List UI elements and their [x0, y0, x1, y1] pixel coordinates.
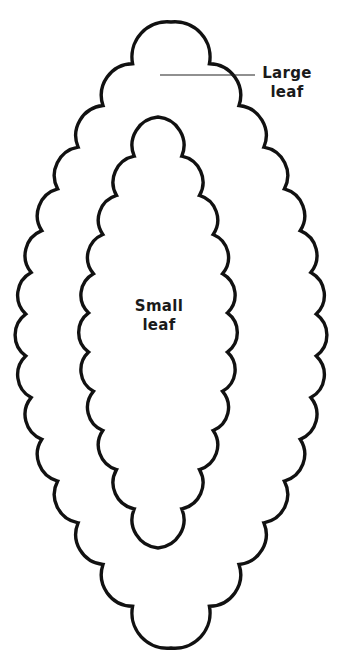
- large-leaf-label-line2: leaf: [258, 83, 316, 102]
- large-leaf-label-line1: Large: [258, 64, 316, 83]
- small-leaf-label-line2: leaf: [124, 316, 194, 335]
- large-leaf-label: Large leaf: [258, 64, 316, 102]
- small-leaf-label: Small leaf: [124, 297, 194, 335]
- small-leaf-label-line1: Small: [124, 297, 194, 316]
- large-leaf-outline: [15, 22, 327, 648]
